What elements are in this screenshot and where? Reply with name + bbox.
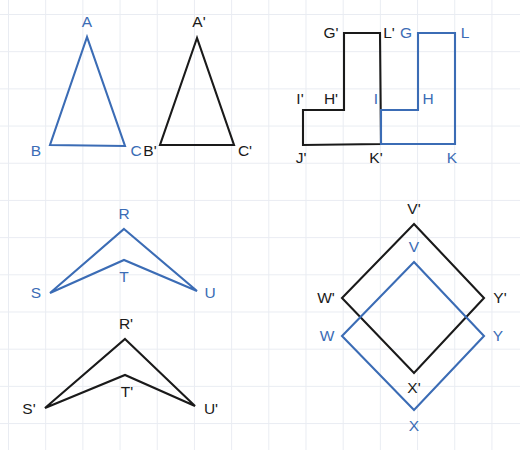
vertex-label-C-prime: C' xyxy=(238,143,252,159)
vertex-label-U-prime: U' xyxy=(204,401,218,417)
vertex-label-B-prime: B' xyxy=(143,143,156,159)
vertex-label-W: W xyxy=(320,328,335,344)
vertex-label-T-prime: T' xyxy=(121,384,133,400)
vertex-label-H: H xyxy=(422,91,433,107)
vertex-label-S-prime: S' xyxy=(22,401,35,417)
vertex-label-C: C xyxy=(130,143,141,159)
vertex-label-T: T xyxy=(119,269,128,285)
vertex-label-G: G xyxy=(400,25,412,41)
vertex-label-Y: Y xyxy=(493,328,503,344)
vertex-label-X-prime: X' xyxy=(407,380,420,396)
vertex-label-V: V xyxy=(409,239,419,255)
vertex-label-U: U xyxy=(204,285,215,301)
vertex-label-R-prime: R' xyxy=(119,316,133,332)
vertex-label-S: S xyxy=(31,285,41,301)
vertex-label-H-prime: H' xyxy=(324,91,338,107)
vertex-label-L-prime: L' xyxy=(383,25,395,41)
vertex-label-A: A xyxy=(82,14,92,30)
vertex-labels-layer: ABCA'B'C'G'L'K'J'I'H'GLKIHRSTUR'S'T'U'V'… xyxy=(0,0,520,450)
vertex-label-L: L xyxy=(461,25,470,41)
vertex-label-X: X xyxy=(409,418,419,434)
vertex-label-K: K xyxy=(447,150,457,166)
vertex-label-I: I xyxy=(374,91,378,107)
vertex-label-J-prime: J' xyxy=(296,150,307,166)
vertex-label-B: B xyxy=(31,143,41,159)
vertex-label-R: R xyxy=(118,206,129,222)
vertex-label-W-prime: W' xyxy=(317,290,335,306)
worksheet-canvas: ABCA'B'C'G'L'K'J'I'H'GLKIHRSTUR'S'T'U'V'… xyxy=(0,0,520,450)
vertex-label-I-prime: I' xyxy=(296,91,303,107)
vertex-label-K-prime: K' xyxy=(369,150,382,166)
vertex-label-Y-prime: Y' xyxy=(493,290,506,306)
vertex-label-G-prime: G' xyxy=(323,25,338,41)
vertex-label-A-prime: A' xyxy=(192,14,205,30)
vertex-label-V-prime: V' xyxy=(407,201,420,217)
